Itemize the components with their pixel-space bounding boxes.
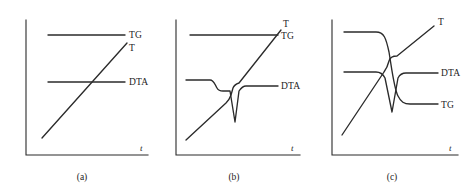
panel-c-curve-tg bbox=[344, 32, 438, 104]
panel-c-plot: T DTA TG t (c) bbox=[310, 0, 475, 190]
panel-c-label-dta: DTA bbox=[441, 68, 460, 78]
panel-a-label-dta: DTA bbox=[129, 77, 148, 87]
panel-b-plot: T TG DTA t (b) bbox=[150, 0, 315, 190]
panel-a: TG T DTA t (a) bbox=[0, 0, 160, 190]
panel-c-caption: (c) bbox=[387, 172, 398, 183]
panel-c-label-t: T bbox=[438, 17, 444, 27]
panel-c-curve-dta bbox=[344, 72, 438, 112]
panel-a-label-t: T bbox=[129, 43, 135, 53]
panel-b-label-t: T bbox=[283, 19, 289, 29]
panel-b-label-dta: DTA bbox=[281, 81, 300, 91]
thermal-analysis-figure: TG T DTA t (a) T TG DTA t (b) bbox=[0, 0, 475, 190]
panel-b-caption: (b) bbox=[228, 172, 239, 183]
panel-b: T TG DTA t (b) bbox=[150, 0, 315, 190]
panel-b-label-tg: TG bbox=[281, 31, 294, 41]
panel-a-axis-label: t bbox=[140, 143, 143, 153]
panel-a-plot: TG T DTA t (a) bbox=[0, 0, 160, 190]
panel-a-caption: (a) bbox=[77, 172, 88, 183]
panel-c-axis-label: t bbox=[449, 143, 452, 153]
panel-c-label-tg: TG bbox=[441, 100, 454, 110]
panel-b-curve-dta bbox=[186, 80, 278, 122]
panel-c-curve-t bbox=[342, 26, 434, 135]
panel-b-axis-label: t bbox=[291, 143, 294, 153]
panel-c: T DTA TG t (c) bbox=[310, 0, 475, 190]
panel-a-label-tg: TG bbox=[129, 30, 142, 40]
panel-b-curve-t bbox=[186, 30, 281, 140]
panel-a-curve-t bbox=[42, 43, 127, 138]
